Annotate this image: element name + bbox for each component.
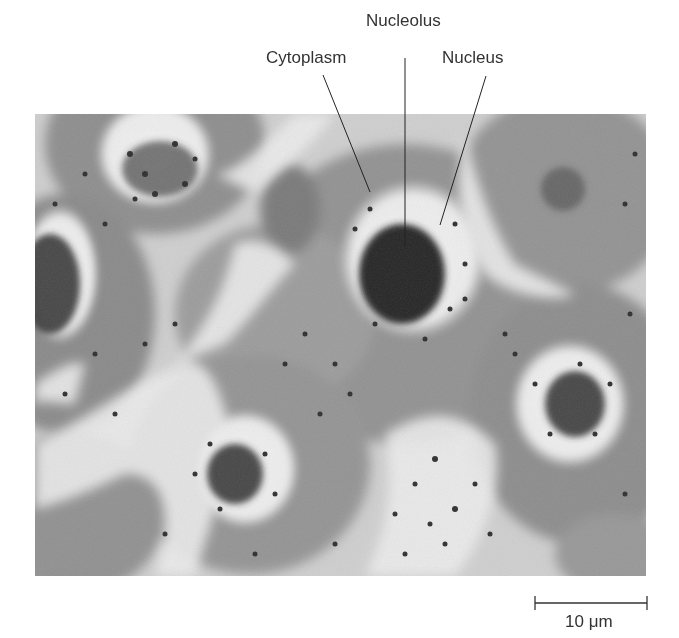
- micrograph-image: [35, 114, 646, 576]
- label-nucleus: Nucleus: [442, 48, 503, 68]
- scale-bar-label: 10 μm: [565, 612, 613, 632]
- label-cytoplasm: Cytoplasm: [266, 48, 346, 68]
- scale-bar: [535, 596, 647, 610]
- label-nucleolus: Nucleolus: [366, 11, 441, 31]
